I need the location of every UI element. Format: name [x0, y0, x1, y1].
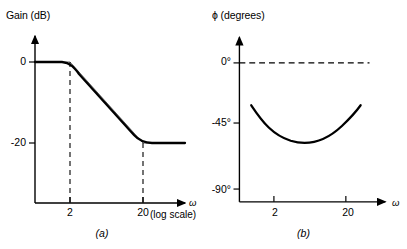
- bode-plot-figure: Gain (dB) 0 -20 2 20 ω (log scale) (a): [0, 0, 407, 249]
- phase-ytick-label-minus90: -90°: [200, 184, 231, 195]
- gain-ytick-label-0: 0: [2, 56, 26, 67]
- phase-ytick-label-minus45: -45°: [200, 117, 231, 128]
- phase-panel-caption: (b): [200, 228, 407, 239]
- phase-plot-panel: ϕ (degrees) 0° -45° -90° 2 20 ω (b): [200, 0, 404, 249]
- gain-response-curve: [35, 62, 185, 143]
- phase-y-axis-label: ϕ (degrees): [212, 10, 265, 21]
- phase-xtick-label-2: 2: [263, 207, 287, 218]
- gain-y-axis-label: Gain (dB): [6, 10, 50, 21]
- gain-x-axis-name: ω: [189, 198, 196, 208]
- gain-x-axis-sublabel: (log scale): [150, 210, 196, 220]
- gain-panel-caption: (a): [0, 228, 204, 239]
- phase-xtick-label-20: 20: [336, 207, 360, 218]
- phase-ytick-label-0: 0°: [206, 56, 231, 67]
- phase-x-axis-name: ω: [392, 198, 399, 208]
- gain-ytick-label-minus20: -20: [0, 137, 26, 148]
- gain-asymptote-line: [35, 62, 185, 143]
- phase-response-curve: [251, 105, 360, 143]
- gain-plot-panel: Gain (dB) 0 -20 2 20 ω (log scale) (a): [0, 0, 204, 249]
- gain-xtick-label-2: 2: [58, 207, 82, 218]
